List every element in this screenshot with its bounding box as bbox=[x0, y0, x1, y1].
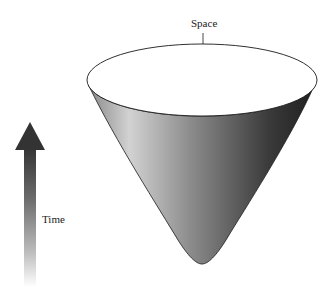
space-ellipse bbox=[87, 44, 317, 116]
light-cone-diagram bbox=[0, 0, 332, 306]
time-arrow-icon bbox=[15, 122, 45, 287]
space-label: Space bbox=[191, 17, 217, 29]
time-label: Time bbox=[42, 213, 65, 225]
